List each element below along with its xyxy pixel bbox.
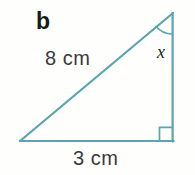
hypotenuse-label: 8 cm [45,48,90,68]
angle-arc-icon [156,27,173,35]
triangle-figure: b 8 cm 3 cm x [0,0,195,175]
base-label: 3 cm [73,148,118,168]
angle-label: x [157,43,165,61]
right-angle-marker-icon [160,127,173,140]
part-label: b [36,10,50,33]
